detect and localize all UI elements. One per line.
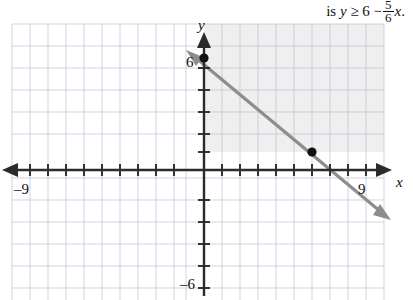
caption-relation: ≥ [350, 3, 358, 19]
graph-svg [0, 18, 413, 300]
caption-prefix: is [326, 3, 336, 19]
caption-operator: − [374, 3, 382, 19]
y-tick-label-neg6: –6 [180, 276, 195, 293]
y-axis-label: y [198, 17, 205, 34]
point-y-intercept [199, 53, 208, 62]
y-tick-label-6: 6 [186, 54, 194, 71]
caption-period: . [401, 3, 405, 19]
caption-constant: 6 [362, 3, 370, 19]
x-axis [2, 163, 392, 177]
x-axis-label: x [396, 174, 403, 191]
figure-root: is y ≥ 6 −56x. [0, 0, 413, 300]
x-tick-label-9: 9 [358, 181, 366, 198]
x-tick-label-neg9: –9 [14, 181, 29, 198]
caption-variable-y: y [340, 3, 347, 19]
point-on-line [307, 147, 316, 156]
coordinate-graph: y x –9 9 6 –6 [0, 18, 413, 300]
